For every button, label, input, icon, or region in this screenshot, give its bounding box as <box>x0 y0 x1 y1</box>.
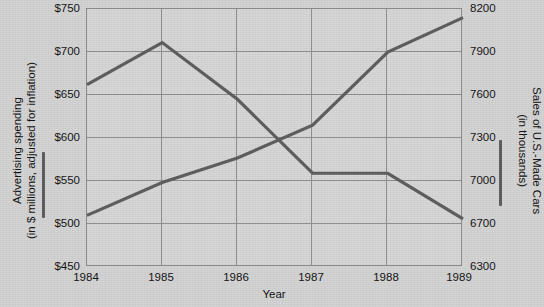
x-axis-tick-1984: 1984 <box>73 271 99 283</box>
left-axis-title-line2: (in $ millions, adjusted for inflation) <box>25 56 39 246</box>
x-axis-tick-1985: 1985 <box>148 271 174 283</box>
left-axis-tick-750: $750 <box>54 3 80 15</box>
left-axis-tick-700: $700 <box>54 46 80 58</box>
right-axis-tick-6700: 6700 <box>470 218 496 230</box>
left-axis-tick-600: $600 <box>54 132 80 144</box>
right-axis-title-line1: Sales of U.S.-Made Cars <box>529 66 543 236</box>
x-axis-tick-1986: 1986 <box>223 271 249 283</box>
right-axis-tick-group: 8200 7900 7600 7300 7000 6700 6300 <box>470 0 514 307</box>
right-axis-title-line2: (in thousands) <box>515 66 529 236</box>
legend-swatch-car-sales <box>499 140 502 206</box>
right-axis-tick-6300: 6300 <box>470 261 496 273</box>
left-axis-tick-500: $500 <box>54 218 80 230</box>
right-axis-tick-7300: 7300 <box>470 132 496 144</box>
x-axis-tick-1989: 1989 <box>446 271 472 283</box>
series-layer <box>87 9 463 267</box>
x-axis-tick-1988: 1988 <box>373 271 399 283</box>
chart-container: $750 $700 $650 $600 $550 $500 $450 8200 … <box>0 0 544 307</box>
left-axis-tick-550: $550 <box>54 175 80 187</box>
left-axis-tick-650: $650 <box>54 89 80 101</box>
left-axis-title-line1: Advertising spending <box>11 56 25 246</box>
legend-swatch-advertising <box>42 152 45 218</box>
right-axis-tick-7900: 7900 <box>470 46 496 58</box>
right-axis-tick-7600: 7600 <box>470 89 496 101</box>
right-axis-tick-7000: 7000 <box>470 175 496 187</box>
left-axis-title: Advertising spending (in $ millions, adj… <box>11 56 38 246</box>
plot-area <box>86 8 462 266</box>
x-axis-tick-1987: 1987 <box>298 271 324 283</box>
x-axis-title: Year <box>262 288 285 300</box>
right-axis-title: Sales of U.S.-Made Cars (in thousands) <box>515 66 542 236</box>
right-axis-tick-8200: 8200 <box>470 3 496 15</box>
